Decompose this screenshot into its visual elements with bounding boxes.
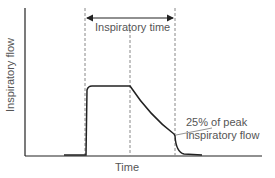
threshold-annotation: 25% of peak inspiratory flow bbox=[186, 116, 259, 142]
y-axis-label: Inspiratory flow bbox=[4, 38, 17, 112]
x-axis-label: Time bbox=[115, 161, 139, 174]
annotation-line-1: 25% of peak bbox=[186, 116, 259, 129]
annotation-line-2: inspiratory flow bbox=[186, 129, 259, 142]
inspiratory-time-label: Inspiratory time bbox=[95, 21, 170, 34]
